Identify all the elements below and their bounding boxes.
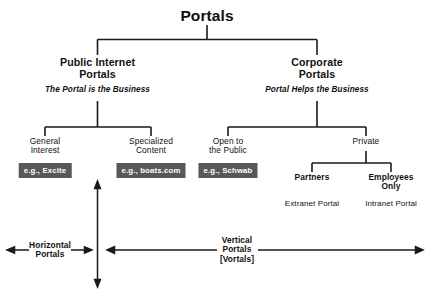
badge-example-schwab: e.g., Schwab [198,163,257,178]
axis-label-vertical-portals-line3: [Vortals] [220,255,254,264]
node-specialized-content: Specialized Content [129,137,173,156]
node-root-portals: Portals [180,7,233,24]
node-open-to-the-public-line2: the Public [209,146,247,155]
badge-example-boatscom: e.g., boats.com [116,163,185,178]
node-private: Private [353,137,380,146]
node-corporate-portals: Corporate Portals [291,57,343,81]
axis-label-horizontal-portals: Horizontal Portals [29,241,71,260]
node-general-interest-line2: Interest [30,146,61,155]
node-employees-only: Employees Only [368,173,413,192]
node-employees-only-line2: Only [368,182,413,191]
axis-vertical-right-arrowhead [416,247,424,254]
node-employees-only-caption: Intranet Portal [365,200,417,209]
axis-vertical-left-arrowhead [107,247,115,254]
node-corporate-portals-subtitle: Portal Helps the Business [265,85,369,94]
node-partners-line1: Partners [295,173,330,182]
node-private-line1: Private [353,137,380,146]
node-public-internet-portals-subtitle: The Portal is the Business [45,85,150,94]
node-public-internet-portals-line2: Portals [60,69,135,81]
portals-taxonomy-diagram: Portals Public Internet Portals The Port… [0,0,433,302]
axis-label-horizontal-portals-line2: Portals [29,250,71,259]
node-specialized-content-line2: Content [129,146,173,155]
node-partners: Partners [295,173,330,182]
node-open-to-the-public: Open to the Public [209,137,247,156]
axis-label-vertical-portals: Vertical Portals [Vortals] [220,236,254,264]
axis-horizontal-right-arrowhead [85,247,93,253]
axis-vertical-arrow-down [95,280,101,288]
badge-example-excite: e.g., Excite [19,163,72,178]
node-public-internet-portals: Public Internet Portals [60,57,135,81]
axis-vertical-arrow-up [95,181,101,189]
node-general-interest: General Interest [30,137,61,156]
node-partners-caption: Extranet Portal [285,200,339,209]
node-corporate-portals-line2: Portals [291,69,343,81]
axis-horizontal-left-arrowhead [7,247,15,253]
node-root-label: Portals [180,7,233,24]
